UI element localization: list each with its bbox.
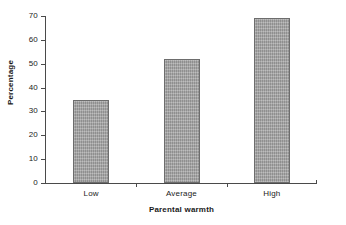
x-axis-category-label: Average <box>136 189 226 198</box>
y-axis-tick <box>41 159 45 160</box>
bar-high <box>254 18 290 183</box>
y-axis-tick-label: 20 <box>0 131 38 139</box>
bar-chart-figure: Percentage 010203040506070 LowAverageHig… <box>0 0 346 225</box>
x-axis-category-label: High <box>227 189 317 198</box>
x-axis-category-label: Low <box>46 189 136 198</box>
y-axis-tick <box>41 64 45 65</box>
y-axis-tick <box>41 183 45 184</box>
bar-average <box>164 59 200 183</box>
y-axis-tick <box>41 88 45 89</box>
y-axis-tick-label: 60 <box>0 36 38 44</box>
x-axis-tick <box>227 183 228 187</box>
x-axis-tick <box>136 183 137 187</box>
y-axis-tick <box>41 40 45 41</box>
x-axis-title: Parental warmth <box>46 205 317 214</box>
y-axis-tick <box>41 16 45 17</box>
x-axis-line <box>45 183 317 184</box>
y-axis-tick-label: 70 <box>0 12 38 20</box>
y-axis-tick-label: 40 <box>0 84 38 92</box>
y-axis-tick-label: 50 <box>0 60 38 68</box>
y-axis-tick-label: 0 <box>0 179 38 187</box>
plot-area <box>46 16 317 183</box>
y-axis-tick <box>41 135 45 136</box>
y-axis-tick <box>41 111 45 112</box>
y-axis-tick-label: 30 <box>0 107 38 115</box>
y-axis-tick-label: 10 <box>0 155 38 163</box>
bar-low <box>73 100 109 184</box>
